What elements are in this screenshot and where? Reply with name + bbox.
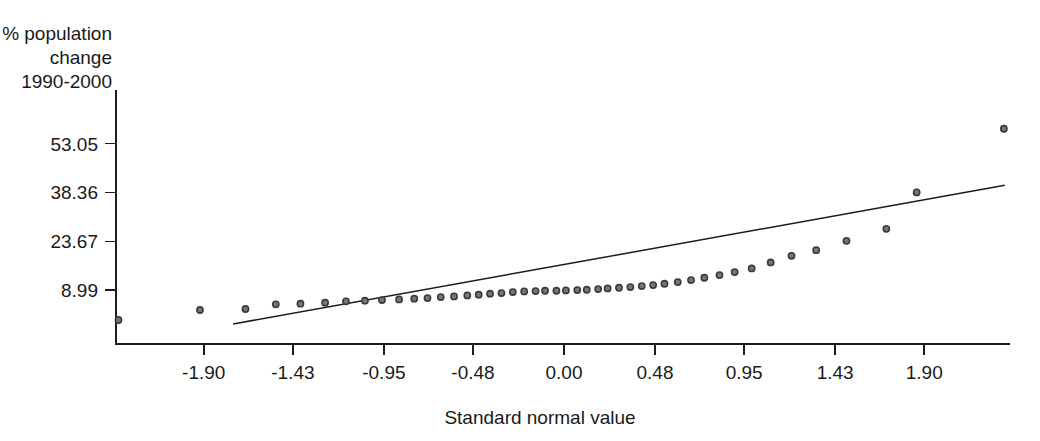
y-axis-tick-label: 23.67 — [50, 231, 98, 252]
data-points-layer — [115, 126, 1007, 323]
data-point — [732, 269, 738, 275]
y-axis-tick-label: 38.36 — [50, 182, 98, 203]
data-point — [553, 288, 559, 294]
data-point — [914, 189, 920, 195]
data-point — [542, 288, 548, 294]
x-axis-tick-label: 1.43 — [817, 362, 854, 383]
data-point — [843, 238, 849, 244]
qq-plot-figure: % population change 1990-2000 8.9923.673… — [0, 0, 1040, 441]
data-point — [476, 292, 482, 298]
data-point — [362, 298, 368, 304]
data-point — [688, 277, 694, 283]
x-axis-tick-label: -0.95 — [362, 362, 405, 383]
x-axis-tick-label: 1.90 — [906, 362, 943, 383]
data-point — [379, 297, 385, 303]
data-point — [464, 292, 470, 298]
data-point — [532, 288, 538, 294]
data-point — [574, 287, 580, 293]
y-axis-title-line-1: % population — [2, 23, 112, 44]
y-axis-title-group: % population change 1990-2000 — [2, 23, 112, 92]
y-axis-title-line-3: 1990-2000 — [21, 71, 112, 92]
data-point — [768, 259, 774, 265]
data-point — [616, 285, 622, 291]
x-axis-title: Standard normal value — [444, 407, 635, 428]
data-point — [498, 290, 504, 296]
data-point — [883, 226, 889, 232]
data-point — [584, 287, 590, 293]
y-axis-tick-label: 53.05 — [50, 134, 98, 155]
x-axis-tick-label: 0.95 — [726, 362, 763, 383]
data-point — [396, 296, 402, 302]
data-point — [521, 288, 527, 294]
data-point — [675, 279, 681, 285]
data-point — [627, 284, 633, 290]
data-point — [424, 295, 430, 301]
x-axis-tick-label: 0.48 — [637, 362, 674, 383]
data-point — [716, 272, 722, 278]
ticks-layer — [105, 144, 924, 355]
x-axis-tick-label: -0.48 — [451, 362, 494, 383]
data-point — [510, 289, 516, 295]
y-axis-tick-label: 8.99 — [61, 280, 98, 301]
x-axis-tick-label: -1.43 — [271, 362, 314, 383]
data-point — [661, 281, 667, 287]
data-point — [322, 300, 328, 306]
qq-plot-canvas: % population change 1990-2000 8.9923.673… — [0, 0, 1040, 441]
tick-labels-layer: 8.9923.6738.3653.05-1.90-1.43-0.95-0.480… — [50, 134, 942, 383]
data-point — [197, 307, 203, 313]
data-point — [343, 298, 349, 304]
axes-layer — [116, 90, 1010, 344]
data-point — [438, 294, 444, 300]
data-point — [595, 286, 601, 292]
data-point — [487, 291, 493, 297]
data-point — [242, 306, 248, 312]
data-point — [788, 253, 794, 259]
data-point — [273, 301, 279, 307]
data-point — [563, 287, 569, 293]
data-point — [605, 285, 611, 291]
data-point — [297, 301, 303, 307]
data-point — [650, 282, 656, 288]
x-axis-tick-label: -1.90 — [182, 362, 225, 383]
data-point — [749, 265, 755, 271]
data-point — [813, 247, 819, 253]
data-point — [115, 317, 121, 323]
data-point — [639, 283, 645, 289]
data-point — [451, 293, 457, 299]
y-axis-title-line-2: change — [50, 47, 112, 68]
data-point — [701, 275, 707, 281]
plot-axes — [116, 90, 1010, 344]
x-axis-tick-label: 0.00 — [546, 362, 583, 383]
data-point — [411, 296, 417, 302]
data-point — [1001, 126, 1007, 132]
